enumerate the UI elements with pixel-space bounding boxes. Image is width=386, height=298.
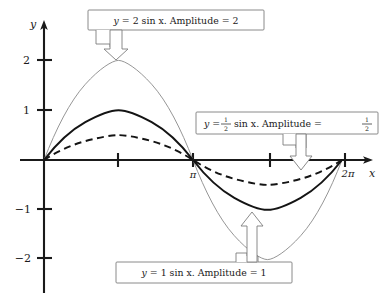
figure-canvas: 2 1 −1 −2 π 2π y x y = 2 sin x. Amplitud… [0,0,386,298]
amplitude-numerator: 1 [365,116,369,123]
x-axis-label: x [369,167,376,180]
callout-amplitude-2-text: y = 2 sin x. Amplitude = 2 [113,15,239,26]
callout-amplitude-1[interactable]: y = 1 sin x. Amplitude = 1 [116,212,292,283]
callout-amplitude-2[interactable]: y = 2 sin x. Amplitude = 2 [88,10,264,60]
callout-amplitude-half-func: sin x. Amplitude = [234,118,322,129]
y-tick-label-neg2: −2 [15,252,31,265]
x-tick-label-two-pi: 2π [341,168,355,179]
sine-amplitude-figure: 2 1 −1 −2 π 2π y x y = 2 sin x. Amplitud… [0,0,386,298]
coefficient-denominator: 2 [224,125,228,132]
y-tick-label-1: 1 [23,104,30,117]
x-tick-label-pi: π [189,169,197,180]
callout-amplitude-1-text: y = 1 sin x. Amplitude = 1 [141,267,267,278]
y-tick-label-neg1: −1 [15,203,31,216]
amplitude-denominator: 2 [365,125,369,132]
callout-amplitude-half[interactable]: y = 1 2 sin x. Amplitude = 1 2 [196,112,378,170]
y-tick-label-2: 2 [23,54,30,67]
callout-amplitude-half-text: y = [203,118,220,129]
axes-group [20,20,373,293]
y-axis-label: y [29,18,37,31]
coefficient-numerator: 1 [224,116,228,123]
